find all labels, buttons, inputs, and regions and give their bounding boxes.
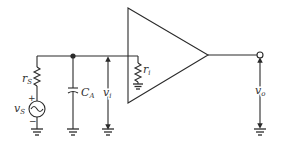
ground-icon-source bbox=[31, 129, 43, 135]
source-resistor-label: rS bbox=[22, 72, 32, 86]
source-label: vS bbox=[14, 102, 25, 116]
input-resistor-icon bbox=[135, 63, 141, 82]
sine-wave-icon bbox=[31, 107, 43, 112]
ground-icon-capacitor bbox=[67, 129, 79, 135]
capacitor-label: CA bbox=[81, 86, 94, 100]
source-minus-sign: − bbox=[29, 116, 37, 126]
circuit-diagram: rS + − vS CA vi ri vo bbox=[0, 0, 282, 148]
ground-icon-input bbox=[102, 129, 114, 135]
source-resistor-icon bbox=[34, 67, 40, 86]
ground-icon-output bbox=[254, 129, 266, 135]
output-terminal bbox=[257, 52, 263, 58]
ground-icon-ri bbox=[133, 84, 143, 89]
input-resistance-label: ri bbox=[143, 63, 151, 77]
source-plus-sign: + bbox=[28, 93, 36, 103]
input-voltage-label: vi bbox=[103, 86, 111, 100]
junction-dot bbox=[70, 53, 75, 58]
output-voltage-label: vo bbox=[255, 84, 265, 98]
